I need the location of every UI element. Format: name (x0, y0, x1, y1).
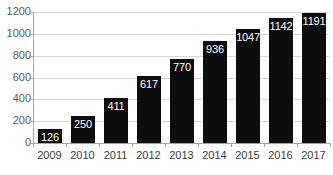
bar-value-label: 1047 (236, 32, 260, 43)
x-axis-category-label: 2010 (66, 149, 99, 161)
y-axis-tick-label: 400 (2, 93, 31, 104)
y-axis-tick-label: 1200 (2, 6, 31, 17)
bar: 126 (38, 129, 62, 143)
y-tick-mark (29, 34, 33, 35)
axis-baseline (33, 143, 330, 144)
y-tick-mark (29, 12, 33, 13)
x-axis-category-label: 2011 (99, 149, 132, 161)
bar-value-label: 770 (170, 62, 194, 73)
y-axis-tick-label: 800 (2, 50, 31, 61)
x-tick-mark (231, 143, 232, 147)
x-axis-category-label: 2012 (132, 149, 165, 161)
x-axis-category-label: 2016 (264, 149, 297, 161)
x-axis-category-label: 2015 (231, 149, 264, 161)
bar: 411 (104, 98, 128, 143)
plot-area: 126250411617770936104711421191 (33, 12, 330, 143)
x-axis-labels: 200920102011201220132014201520162017 (33, 149, 330, 169)
bar: 617 (137, 76, 161, 143)
x-tick-mark (264, 143, 265, 147)
bar: 770 (170, 59, 194, 143)
gridline (33, 12, 330, 13)
bar: 1142 (269, 18, 293, 143)
bar-value-label: 617 (137, 79, 161, 90)
x-tick-mark (297, 143, 298, 147)
y-axis-tick-label: 200 (2, 115, 31, 126)
x-tick-mark (66, 143, 67, 147)
x-tick-mark (198, 143, 199, 147)
y-tick-mark (29, 121, 33, 122)
bar: 936 (203, 41, 227, 143)
x-tick-mark (165, 143, 166, 147)
y-axis-tick-label: 600 (2, 72, 31, 83)
bar: 250 (71, 116, 95, 143)
x-axis-category-label: 2014 (198, 149, 231, 161)
bar-value-label: 1142 (269, 21, 293, 32)
x-axis-category-label: 2017 (297, 149, 330, 161)
bar-value-label: 250 (71, 119, 95, 130)
bar: 1047 (236, 29, 260, 143)
x-tick-mark (33, 143, 34, 147)
x-axis-category-label: 2013 (165, 149, 198, 161)
bar-value-label: 411 (104, 101, 128, 112)
y-axis-line (33, 12, 34, 144)
x-axis-category-label: 2009 (33, 149, 66, 161)
bar-value-label: 126 (38, 132, 62, 143)
y-axis-tick-label: 1000 (2, 28, 31, 39)
bar-value-label: 936 (203, 44, 227, 55)
y-tick-mark (29, 99, 33, 100)
bar-chart: 126250411617770936104711421191 020040060… (0, 0, 333, 175)
y-axis-labels: 020040060080010001200 (0, 12, 31, 143)
bar-value-label: 1191 (302, 16, 326, 27)
x-tick-mark (99, 143, 100, 147)
x-tick-mark (330, 143, 331, 147)
bar: 1191 (302, 13, 326, 143)
x-tick-mark (132, 143, 133, 147)
y-tick-mark (29, 78, 33, 79)
y-axis-tick-label: 0 (2, 137, 31, 148)
y-tick-mark (29, 56, 33, 57)
